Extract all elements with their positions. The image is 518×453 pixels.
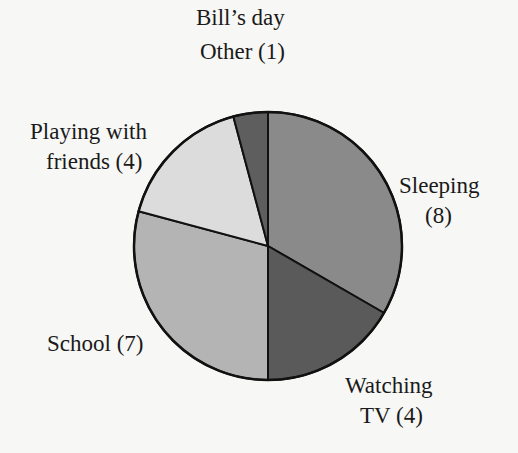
pie-chart	[0, 0, 518, 453]
pie-slices	[134, 112, 402, 380]
